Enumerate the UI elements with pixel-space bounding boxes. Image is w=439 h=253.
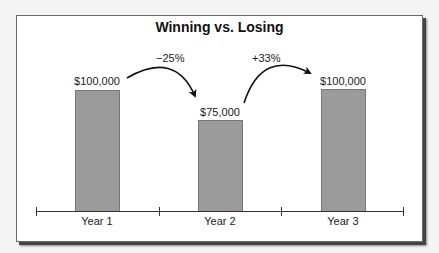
x-axis-tick	[281, 207, 282, 216]
x-label-year-3: Year 3	[303, 215, 383, 227]
x-axis	[36, 211, 404, 212]
x-axis-tick	[36, 207, 37, 216]
x-label-year-2: Year 2	[180, 215, 260, 227]
increase-arrow-icon	[244, 65, 310, 103]
decrease-arrow-icon	[127, 67, 195, 96]
x-label-year-1: Year 1	[57, 215, 137, 227]
x-axis-tick	[159, 207, 160, 216]
x-axis-tick	[403, 207, 404, 216]
